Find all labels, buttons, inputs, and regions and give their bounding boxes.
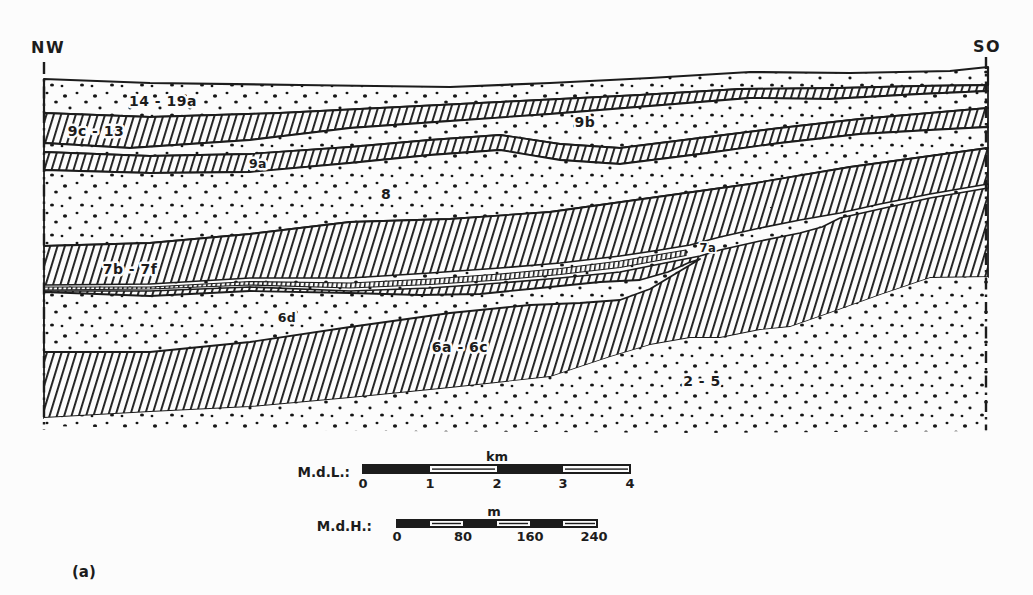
length-scale-midline-3-4 <box>565 468 628 469</box>
layer-label-6d: 6d <box>278 310 297 325</box>
layer-label-7b-7f: 7b - 7f <box>103 261 158 277</box>
layer-label-9c-13: 9c - 13 <box>68 123 125 139</box>
height-scale-label: M.d.H.: <box>317 518 372 534</box>
layer-label-14-19a: 14 - 19a <box>129 93 197 109</box>
direction-label-so: SO <box>973 37 1001 56</box>
length-scale-bar: M.d.L.: km 0 1 2 3 4 <box>298 449 635 491</box>
length-scale-segment-2-3 <box>497 464 563 474</box>
layer-label-9b: 9b <box>575 114 596 130</box>
height-tick-240: 240 <box>580 529 607 544</box>
layer-label-2-5: 2 - 5 <box>683 373 721 389</box>
layer-label-9a: 9a <box>249 156 267 171</box>
height-tick-160: 160 <box>516 529 543 544</box>
height-scale-midline-6 <box>565 523 595 524</box>
direction-label-nw: NW <box>31 38 65 57</box>
layer-label-7a: 7a <box>700 241 717 255</box>
length-tick-3: 3 <box>558 476 567 491</box>
height-scale-unit: m <box>487 504 501 519</box>
length-tick-1: 1 <box>425 476 434 491</box>
height-tick-0: 0 <box>392 529 401 544</box>
figure-geological-cross-section: NW SO 14 - 19a 9c - 13 9b 9a 8 7a 7b - 7… <box>0 0 1033 595</box>
length-tick-2: 2 <box>492 476 501 491</box>
height-scale-midline-2 <box>432 523 461 524</box>
length-scale-unit: km <box>486 449 508 464</box>
height-scale-midline-4 <box>499 523 528 524</box>
length-tick-0: 0 <box>358 476 367 491</box>
height-scale-bar: M.d.H.: m 0 80 160 240 <box>317 504 608 544</box>
length-tick-4: 4 <box>625 476 634 491</box>
height-tick-80: 80 <box>454 529 472 544</box>
height-scale-segment-3 <box>463 519 497 528</box>
panel-label: (a) <box>72 563 96 581</box>
height-scale-segment-1 <box>397 519 430 528</box>
height-scale-segment-5 <box>530 519 563 528</box>
length-scale-label: M.d.L.: <box>298 464 350 480</box>
length-scale-midline-1-2 <box>432 468 495 469</box>
layer-label-8: 8 <box>381 186 391 202</box>
layer-label-6a-6c: 6a - 6c <box>432 339 488 355</box>
length-scale-segment-0-1 <box>363 464 430 474</box>
cross-section-svg: NW SO 14 - 19a 9c - 13 9b 9a 8 7a 7b - 7… <box>0 0 1033 595</box>
